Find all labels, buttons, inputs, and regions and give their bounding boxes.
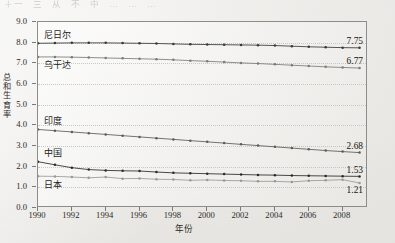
y-axis-tick-label: 5.0 xyxy=(0,100,27,108)
end-value-中国: 1.53 xyxy=(347,165,363,175)
series-marker xyxy=(37,160,39,163)
series-line xyxy=(38,43,360,48)
series-label-乌干达: 乌干达 xyxy=(44,58,72,71)
series-marker xyxy=(189,59,192,62)
series-marker xyxy=(308,148,311,151)
series-marker xyxy=(155,58,158,61)
series-marker xyxy=(274,146,277,149)
series-marker xyxy=(121,57,124,60)
series-4 xyxy=(37,160,361,177)
series-marker xyxy=(358,151,361,154)
series-marker xyxy=(324,179,327,182)
y-axis-tick-label: 7.0 xyxy=(0,58,27,66)
series-marker xyxy=(88,168,91,171)
y-axis-tick-mark xyxy=(32,21,36,22)
series-marker xyxy=(274,63,277,66)
series-marker xyxy=(172,172,175,175)
y-axis-tick-mark xyxy=(32,207,36,208)
series-marker xyxy=(291,45,294,48)
series-marker xyxy=(206,179,209,182)
y-axis-tick-mark xyxy=(32,186,36,187)
x-axis-tick-mark xyxy=(206,207,207,211)
series-marker xyxy=(138,170,141,173)
series-marker xyxy=(274,180,277,183)
series-marker xyxy=(358,182,361,185)
series-5 xyxy=(37,175,361,184)
series-marker xyxy=(189,179,192,182)
y-axis-tick-mark xyxy=(32,166,36,167)
series-marker xyxy=(104,133,107,136)
x-axis-title: 年份 xyxy=(0,222,395,234)
series-marker xyxy=(172,43,175,46)
series-marker xyxy=(257,174,260,177)
series-marker xyxy=(291,181,294,184)
series-label-日本: 日本 xyxy=(44,178,62,191)
series-marker xyxy=(104,42,107,45)
y-axis-tick-mark xyxy=(32,62,36,63)
series-marker xyxy=(223,61,226,64)
series-label-尼日尔: 尼日尔 xyxy=(44,28,72,41)
series-marker xyxy=(223,173,226,176)
y-axis-tick-mark xyxy=(32,42,36,43)
y-axis-tick-mark xyxy=(32,124,36,125)
series-marker xyxy=(189,172,192,175)
series-lines-layer xyxy=(38,22,367,207)
x-axis-tick-mark xyxy=(308,207,309,211)
series-marker xyxy=(308,175,311,178)
y-axis-tick-mark xyxy=(32,83,36,84)
x-axis-tick-mark xyxy=(139,207,140,211)
series-marker xyxy=(358,47,361,50)
series-marker xyxy=(341,66,344,69)
series-marker xyxy=(121,177,124,180)
y-axis-tick-label: 2.0 xyxy=(0,162,27,170)
x-axis-tick-mark xyxy=(240,207,241,211)
series-marker xyxy=(54,164,57,167)
end-value-日本: 1.21 xyxy=(347,185,363,195)
series-marker xyxy=(240,62,243,65)
series-3 xyxy=(37,128,361,154)
series-marker xyxy=(358,175,361,178)
series-marker xyxy=(324,175,327,178)
series-marker xyxy=(223,43,226,46)
series-marker xyxy=(240,143,243,146)
x-axis-tick-mark xyxy=(37,207,38,211)
series-marker xyxy=(138,177,141,180)
series-marker xyxy=(206,141,209,144)
x-axis-title-text: 年份 xyxy=(175,222,193,234)
series-marker xyxy=(206,43,209,46)
series-marker xyxy=(324,66,327,69)
series-marker xyxy=(274,174,277,177)
series-marker xyxy=(138,58,141,61)
series-marker xyxy=(155,137,158,140)
series-marker xyxy=(324,46,327,49)
series-marker xyxy=(71,131,74,134)
series-marker xyxy=(121,134,124,137)
series-marker xyxy=(155,42,158,45)
series-marker xyxy=(257,180,260,183)
y-axis-tick-label: 1.0 xyxy=(0,182,27,190)
series-marker xyxy=(54,129,57,132)
series-label-中国: 中国 xyxy=(44,146,62,159)
series-marker xyxy=(291,174,294,177)
series-marker xyxy=(54,42,57,45)
x-axis-tick-mark xyxy=(274,207,275,211)
series-marker xyxy=(88,177,91,180)
series-marker xyxy=(308,46,311,49)
end-value-印度: 2.68 xyxy=(347,141,363,151)
series-marker xyxy=(274,44,277,47)
series-marker xyxy=(223,179,226,182)
series-marker xyxy=(71,166,74,169)
end-value-尼日尔: 7.75 xyxy=(347,36,363,46)
y-axis-tick-mark xyxy=(32,145,36,146)
x-axis-tick-mark xyxy=(105,207,106,211)
series-line xyxy=(38,176,360,183)
x-axis-tick-mark xyxy=(71,207,72,211)
series-marker xyxy=(341,175,344,178)
series-marker xyxy=(341,46,344,49)
y-axis-tick-label: 9.0 xyxy=(0,17,27,25)
plot-area: 尼日尔乌干达印度中国日本 7.756.772.681.531.21 xyxy=(37,21,367,207)
series-marker xyxy=(291,147,294,150)
series-marker xyxy=(71,176,74,179)
x-axis-tick-label: 2008 xyxy=(322,210,362,220)
series-marker xyxy=(37,128,39,131)
